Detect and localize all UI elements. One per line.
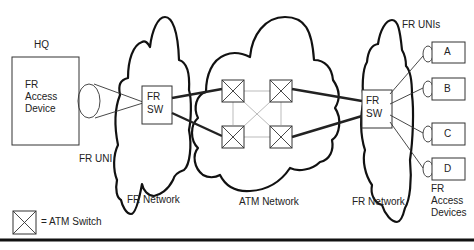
right-switch-line-2: SW	[366, 108, 382, 120]
trunk-right-upper	[292, 89, 362, 101]
atm-switch-icon	[270, 126, 292, 148]
uni-line-bottom	[95, 103, 143, 118]
left-network-label: FR Network	[127, 194, 180, 206]
atm-switch-icon	[222, 80, 244, 102]
atm-network-cloud	[192, 17, 339, 191]
hq-uni-ellipse	[78, 84, 100, 118]
right-switch-line-1: FR	[366, 95, 379, 107]
network-diagram	[0, 0, 474, 250]
trunk-left-upper	[172, 89, 222, 98]
device-d-label: D	[444, 163, 451, 175]
hq-device-line-1: FR	[25, 79, 38, 91]
hq-device-line-3: Device	[25, 103, 56, 115]
fr-uni-label: FR UNI	[79, 153, 112, 165]
left-switch-line-1: FR	[147, 91, 160, 103]
device-a-label: A	[444, 46, 451, 58]
atm-switch-icon	[270, 80, 292, 102]
remote-devices-label-1: FR	[431, 183, 444, 195]
access-line-b	[390, 88, 423, 104]
fr-unis-label: FR UNIs	[402, 19, 440, 31]
remote-devices-label-3: Devices	[431, 207, 467, 219]
remote-devices-label-2: Access	[431, 195, 463, 207]
hq-device-line-2: Access	[25, 91, 57, 103]
atm-switch-icon	[222, 126, 244, 148]
device-b-label: B	[444, 83, 451, 95]
access-line-d	[390, 122, 423, 168]
trunk-right-lower	[292, 116, 362, 137]
atm-network-label: ATM Network	[239, 196, 299, 208]
left-switch-line-2: SW	[147, 104, 163, 116]
access-line-c	[390, 115, 423, 133]
right-network-label: FR Network	[352, 196, 405, 208]
device-c-label: C	[444, 128, 451, 140]
legend-atm-switch-icon	[13, 211, 36, 234]
legend-text: = ATM Switch	[41, 216, 102, 228]
hq-label: HQ	[34, 39, 49, 51]
